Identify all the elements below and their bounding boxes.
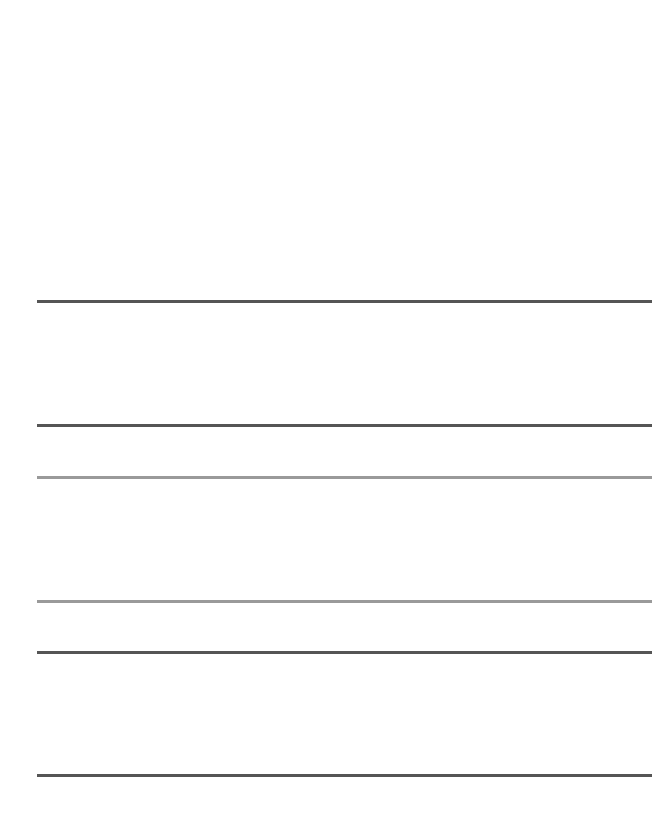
base-line-solid [37, 774, 652, 777]
mid-line-dashed [37, 538, 652, 541]
top-line-solid [37, 300, 652, 303]
top-line-solid [37, 476, 652, 479]
blank-top-area [0, 0, 657, 290]
mid-line-dashed [37, 713, 652, 716]
top-line-solid [37, 651, 652, 654]
handwriting-worksheet [0, 0, 657, 831]
base-line-solid [37, 600, 652, 603]
base-line-solid [37, 424, 652, 427]
mid-line-dashed [37, 362, 652, 365]
